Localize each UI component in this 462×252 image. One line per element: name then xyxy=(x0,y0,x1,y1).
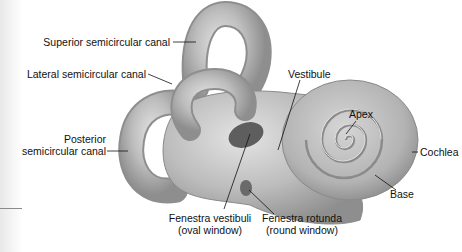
label-lateral-semicircular-canal: Lateral semicircular canal xyxy=(16,68,146,80)
label-apex: Apex xyxy=(349,108,373,120)
label-fenestra-vestibuli-line2: (oval window) xyxy=(160,224,260,236)
cochlea xyxy=(282,80,418,200)
label-superior-semicircular-canal: Superior semicircular canal xyxy=(40,36,170,48)
inner-ear-diagram: Superior semicircular canal Lateral semi… xyxy=(0,0,462,252)
label-posterior-line2: semicircular canal xyxy=(6,145,106,157)
round-window xyxy=(240,180,252,196)
label-vestibule: Vestibule xyxy=(288,68,331,80)
label-cochlea: Cochlea xyxy=(420,146,459,158)
label-fenestra-vestibuli-line1: Fenestra vestibuli xyxy=(160,212,260,224)
label-posterior-line1: Posterior xyxy=(6,133,106,145)
label-fenestra-rotunda-line2: (round window) xyxy=(254,224,350,236)
label-base: Base xyxy=(390,188,414,200)
label-fenestra-rotunda-line1: Fenestra rotunda xyxy=(254,212,350,224)
